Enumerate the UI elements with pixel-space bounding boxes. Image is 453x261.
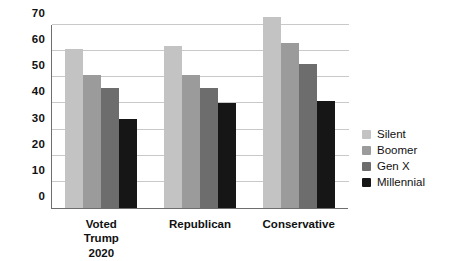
bar-groups: Voted Trump 2020RepublicanConservative (52, 25, 348, 208)
legend-swatch-icon (362, 130, 371, 139)
y-axis-tick-label: 30 (32, 112, 45, 124)
bar (299, 64, 317, 208)
x-axis-group-label: Voted Trump 2020 (77, 217, 126, 260)
legend-item[interactable]: Millennial (362, 176, 425, 188)
legend-label: Gen X (377, 160, 410, 172)
y-axis-tick-label: 70 (32, 7, 45, 19)
bar (119, 119, 137, 208)
legend-label: Millennial (377, 176, 425, 188)
x-axis-group-label: Republican (169, 217, 231, 231)
legend-label: Boomer (377, 144, 417, 156)
bar (200, 88, 218, 208)
bar (281, 43, 299, 208)
x-axis-group-label: Conservative (263, 217, 335, 231)
bar-group: Conservative (249, 25, 348, 208)
bar (83, 75, 101, 208)
legend-swatch-icon (362, 162, 371, 171)
legend-item[interactable]: Silent (362, 128, 425, 140)
legend-label: Silent (377, 128, 406, 140)
y-axis-tick-label: 50 (32, 59, 45, 71)
bar-chart: 010203040506070 Voted Trump 2020Republic… (0, 0, 453, 261)
y-axis-tick-label: 0 (38, 190, 45, 202)
legend-swatch-icon (362, 146, 371, 155)
y-axis-tick-label: 10 (32, 164, 45, 176)
bar-group: Republican (151, 25, 250, 208)
bar (263, 17, 281, 208)
bar (218, 103, 236, 208)
y-axis-tick-label: 40 (32, 85, 45, 97)
bar (182, 75, 200, 208)
legend: SilentBoomerGen XMillennial (362, 128, 425, 188)
bar-group: Voted Trump 2020 (52, 25, 151, 208)
bar (317, 101, 335, 208)
legend-item[interactable]: Gen X (362, 160, 425, 172)
legend-swatch-icon (362, 178, 371, 187)
bar (101, 88, 119, 208)
y-axis-tick-label: 20 (32, 138, 45, 150)
plot-area: 010203040506070 Voted Trump 2020Republic… (51, 25, 348, 209)
bar (164, 46, 182, 208)
bar (65, 49, 83, 208)
legend-item[interactable]: Boomer (362, 144, 425, 156)
y-axis-tick-label: 60 (32, 33, 45, 45)
